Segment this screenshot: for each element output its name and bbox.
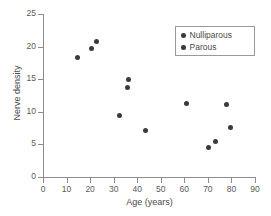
x-tick-label: 60 [172,185,196,194]
data-point [206,145,211,150]
x-tick-label: 70 [196,185,220,194]
data-point [228,125,233,130]
data-point [125,85,130,90]
x-tick [137,178,138,183]
x-tick [184,178,185,183]
x-tick-label: 80 [219,185,243,194]
x-tick-label: 90 [243,185,267,194]
chart-legend: Nulliparous Parous [175,26,255,56]
legend-label: Parous [190,43,217,52]
x-tick [67,178,68,183]
x-tick-label: 30 [102,185,126,194]
legend-marker-icon [181,33,186,38]
x-tick-label: 10 [55,185,79,194]
x-axis-line [43,177,256,178]
data-point [184,101,189,106]
x-tick-label: 40 [125,185,149,194]
x-tick-label: 20 [78,185,102,194]
data-point [143,128,148,133]
data-point [126,77,131,82]
x-tick [90,178,91,183]
y-tick-label: 25 [10,9,36,18]
legend-item-parous: Parous [181,42,254,53]
legend-label: Nulliparous [190,31,233,40]
data-point [213,139,218,144]
scatter-chart-figure: 0510152025 0102030405060708090 Nerve den… [0,0,271,216]
y-axis-title: Nerve density [12,48,22,138]
data-point [89,46,94,51]
data-point [224,102,229,107]
y-tick-label: 5 [10,139,36,148]
x-tick [161,178,162,183]
legend-item-nulliparous: Nulliparous [181,30,254,41]
x-tick [114,178,115,183]
data-point [75,55,80,60]
data-point [117,113,122,118]
y-tick-label: 0 [10,172,36,181]
data-point [94,39,99,44]
x-tick [43,178,44,183]
x-tick [231,178,232,183]
x-tick-label: 0 [31,185,55,194]
legend-marker-icon [181,45,186,50]
x-tick [255,178,256,183]
x-tick-label: 50 [149,185,173,194]
x-axis-title: Age (years) [43,197,256,207]
x-tick [208,178,209,183]
